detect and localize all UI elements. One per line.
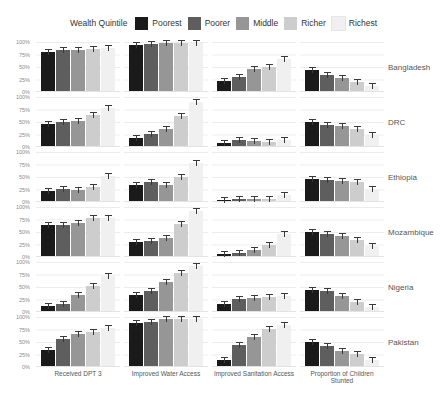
error-bar-cap (324, 288, 331, 289)
bar-richest (277, 296, 291, 311)
error-bar-cap (133, 135, 140, 136)
bar-poorer (56, 339, 70, 366)
error-bar-cap (148, 41, 155, 42)
error-bar-cap (90, 184, 97, 185)
legend-item-label: Middle (253, 18, 278, 28)
error-bar-cap (148, 288, 155, 289)
bar-richest (189, 102, 203, 146)
error-bar-cap (339, 178, 346, 179)
bar-middle (159, 319, 173, 366)
error-bar-cap (369, 83, 376, 84)
bar-middle (71, 334, 85, 366)
bar-poorest (217, 81, 231, 91)
error-bar-cap (369, 304, 376, 305)
error-bar-cap (178, 270, 185, 271)
legend-item-label: Richest (349, 18, 377, 28)
bar-richer (174, 319, 188, 366)
error-bar-cap (236, 137, 243, 138)
error-bar-cap (60, 186, 67, 187)
bar-richest (101, 328, 115, 366)
y-tick-label: 75% (19, 52, 30, 58)
error-bar-cap (281, 56, 288, 57)
error-bar-cap (369, 357, 376, 358)
bar-poorer (320, 291, 334, 311)
y-tick-label: 75% (19, 272, 30, 278)
facet-row-label: Pakistan (388, 338, 419, 347)
facet-panel-nigeria-4 (300, 262, 384, 312)
facet-panel-nigeria-2 (124, 262, 208, 312)
error-bar-cap (178, 174, 185, 175)
facet-strip-nigeria: Nigeria (388, 262, 445, 312)
error-bar-cap (266, 139, 273, 140)
bar-middle (71, 295, 85, 311)
error-bar-cap (221, 301, 228, 302)
y-axis-bangladesh: 100%75%50%25%0% (6, 42, 32, 92)
bar-richer (350, 302, 364, 311)
facet-panel-drc-2 (124, 97, 208, 147)
bar-richest (101, 108, 115, 146)
bar-richer (262, 297, 276, 311)
bar-poorer (232, 345, 246, 366)
bar-middle (247, 69, 261, 91)
error-bar-cap (105, 173, 112, 174)
facet-panel-mozambique-3 (212, 207, 296, 257)
bar-poorer (56, 50, 70, 91)
bar-richest (365, 135, 379, 146)
bar-richest (365, 86, 379, 91)
legend: Wealth Quintile PoorestPoorerMiddleRiche… (0, 0, 447, 34)
bar-poorest (217, 360, 231, 366)
y-tick-label: 0% (22, 364, 30, 370)
error-bar-cap (221, 251, 228, 252)
legend-swatch-icon (332, 17, 345, 30)
y-tick-label: 25% (19, 352, 30, 358)
error-bar-cap (105, 325, 112, 326)
bar-richer (262, 142, 276, 146)
error-bar-cap (105, 45, 112, 46)
bar-poorest (305, 70, 319, 91)
legend-swatch-icon (188, 17, 201, 30)
error-bar-cap (178, 221, 185, 222)
bar-poorest (305, 122, 319, 146)
bar-richest (189, 319, 203, 366)
bar-poorer (144, 182, 158, 201)
x-axis-spacer-left (6, 370, 32, 384)
error-bar-cap (90, 329, 97, 330)
error-bar-cap (75, 331, 82, 332)
error-bar-cap (236, 342, 243, 343)
bar-poorer (144, 134, 158, 146)
error-bar-cap (148, 131, 155, 132)
error-bar-cap (163, 40, 170, 41)
bar-richer (174, 273, 188, 311)
y-tick-label: 50% (19, 64, 30, 70)
error-bar-cap (281, 137, 288, 138)
bar-richer (86, 115, 100, 146)
error-bar-cap (221, 140, 228, 141)
bar-poorest (217, 143, 231, 146)
y-tick-label: 25% (19, 297, 30, 303)
bar-poorer (56, 122, 70, 147)
error-bar-cap (90, 112, 97, 113)
facet-panel-pakistan-4 (300, 317, 384, 367)
error-bar-cap (163, 235, 170, 236)
bar-middle (335, 296, 349, 311)
error-bar-cap (354, 299, 361, 300)
error-bar-cap (60, 47, 67, 48)
y-tick-label: 50% (19, 339, 30, 345)
error-bar-cap (251, 66, 258, 67)
error-bar-cap (309, 339, 316, 340)
x-axis-labels: Received DPT 3Improved Water AccessImpro… (6, 370, 447, 384)
bar-poorer (320, 234, 334, 256)
bar-poorest (129, 138, 143, 146)
facet-row-label: Ethiopia (388, 173, 417, 182)
bar-richest (277, 59, 291, 91)
bar-richer (174, 116, 188, 146)
bar-richest (277, 325, 291, 366)
bar-richer (350, 240, 364, 256)
facet-strip-ethiopia: Ethiopia (388, 152, 445, 202)
x-axis-label: Received DPT 3 (36, 370, 120, 384)
legend-title: Wealth Quintile (70, 18, 127, 28)
y-tick-label: 100% (16, 149, 30, 155)
bar-richer (350, 82, 364, 91)
error-bar-cap (281, 192, 288, 193)
error-bar-cap (236, 296, 243, 297)
